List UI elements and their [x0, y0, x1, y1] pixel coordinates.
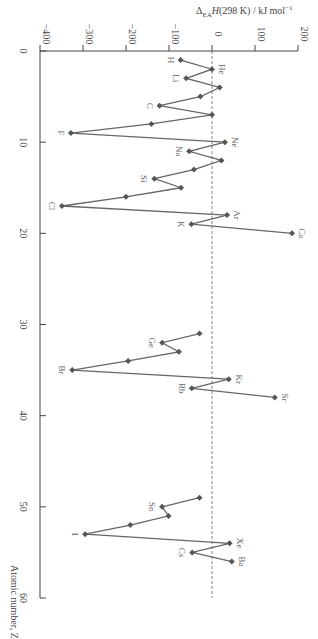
data-point-marker: [123, 194, 129, 200]
data-point-marker: [178, 185, 184, 191]
value-tick-label: 100: [256, 27, 267, 42]
data-point-marker: [127, 522, 133, 528]
data-point-marker: [227, 540, 233, 546]
element-label: H: [166, 57, 176, 64]
data-point-marker: [197, 495, 203, 501]
element-label: Ba: [237, 557, 247, 567]
data-point-marker: [217, 84, 223, 90]
series-line: [72, 334, 275, 398]
data-point-marker: [226, 376, 232, 382]
value-tick-label: −300: [84, 24, 95, 45]
data-point-marker: [178, 57, 184, 63]
element-label: Sn: [147, 502, 157, 512]
data-point-marker: [59, 203, 65, 209]
data-point-marker: [229, 559, 235, 565]
data-point-marker: [186, 148, 192, 154]
data-point-marker: [157, 103, 163, 109]
element-label: I: [70, 533, 80, 536]
data-point-marker: [68, 130, 74, 136]
element-label: Br: [57, 366, 67, 375]
data-point-marker: [183, 75, 189, 81]
data-point-marker: [159, 340, 165, 346]
series-line: [85, 498, 232, 562]
value-tick-label: −200: [127, 24, 138, 45]
element-label: C: [145, 103, 155, 109]
element-label: Ge: [147, 337, 157, 348]
element-label: Cs: [177, 548, 187, 558]
data-point-marker: [176, 349, 182, 355]
element-label: Ne: [230, 137, 240, 148]
element-label: Li: [171, 74, 181, 82]
element-label: Sr: [280, 393, 290, 401]
element-label: Ar: [232, 210, 242, 220]
z-axis-title: Atomic number, Z: [9, 565, 20, 639]
data-point-marker: [191, 167, 197, 173]
data-point-marker: [272, 394, 278, 400]
value-axis-title: ΔEAH(298 K) / kJ mol−1: [196, 4, 293, 19]
data-point-marker: [189, 385, 195, 391]
value-tick-label: 0: [213, 32, 224, 37]
data-point-marker: [151, 176, 157, 182]
z-tick-label: 40: [18, 411, 29, 421]
element-label: Ca: [297, 228, 307, 238]
z-tick-label: 50: [18, 502, 29, 512]
z-tick-label: 10: [18, 137, 29, 147]
z-tick-label: 30: [18, 320, 29, 330]
data-point-marker: [148, 121, 154, 127]
z-tick-label: 0: [18, 49, 29, 54]
element-label: Si: [139, 175, 149, 183]
data-point-marker: [218, 157, 224, 163]
element-label: Kr: [234, 374, 244, 384]
z-tick-label: 20: [18, 228, 29, 238]
element-label: Na: [174, 146, 184, 157]
data-point-marker: [125, 358, 131, 364]
data-point-marker: [224, 212, 230, 218]
data-point-marker: [82, 531, 88, 537]
value-tick-label: 200: [299, 27, 310, 42]
data-point-marker: [189, 549, 195, 555]
element-label: Rb: [177, 383, 187, 394]
value-tick-label: −400: [41, 24, 52, 45]
data-point-marker: [209, 66, 215, 72]
data-point-marker: [289, 230, 295, 236]
data-point-marker: [188, 221, 194, 227]
data-point-marker: [197, 331, 203, 337]
data-point-marker: [197, 94, 203, 100]
data-point-marker: [222, 139, 228, 145]
data-point-marker: [209, 112, 215, 118]
element-label: Xe: [235, 538, 245, 549]
element-label: K: [176, 221, 186, 228]
element-label: Cl: [47, 202, 57, 211]
data-point-marker: [69, 367, 75, 373]
element-label: F: [56, 131, 66, 136]
value-tick-label: −100: [170, 24, 181, 45]
element-label: He: [217, 64, 227, 75]
